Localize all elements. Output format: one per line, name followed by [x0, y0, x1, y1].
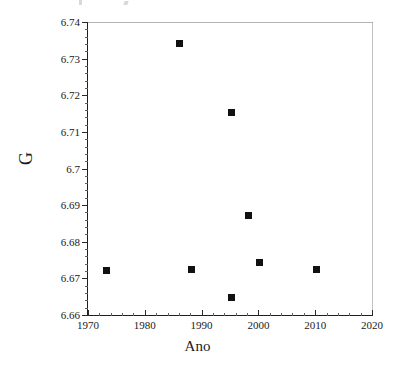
y-axis-tick-label: 6.67: [61, 273, 80, 284]
y-axis-tick-minor: [85, 66, 88, 67]
x-axis-tick-label: 1970: [68, 320, 108, 331]
x-axis-tick-major: [145, 310, 146, 316]
y-axis-tick-minor: [85, 176, 88, 177]
x-axis-tick-minor: [111, 313, 112, 316]
y-axis-tick-minor: [85, 293, 88, 294]
x-axis-title: Ano: [0, 338, 395, 355]
data-point: [255, 258, 264, 267]
y-axis-tick-label: 6.7: [66, 164, 80, 175]
y-axis-tick-label: 6.71: [61, 127, 80, 138]
y-axis-tick-label: 6.74: [61, 17, 80, 28]
y-axis-tick-minor: [85, 183, 88, 184]
cropped-title-artifact-right: [123, 1, 128, 5]
x-axis-tick-minor: [99, 313, 100, 316]
y-axis-tick-minor: [85, 234, 88, 235]
y-axis-tick-minor: [85, 110, 88, 111]
y-axis-tick-minor: [85, 29, 88, 30]
y-axis-tick-minor: [85, 220, 88, 221]
y-axis-tick-minor: [85, 117, 88, 118]
y-axis-tick-minor: [85, 256, 88, 257]
y-axis-tick-label: 6.69: [61, 200, 80, 211]
y-axis-tick-minor: [85, 125, 88, 126]
data-point: [187, 265, 196, 274]
plot-frame-right: [372, 22, 373, 316]
y-axis-tick-minor: [85, 190, 88, 191]
y-axis-tick-major: [82, 205, 88, 206]
y-axis-title: G: [16, 139, 37, 179]
x-axis-tick-minor: [338, 313, 339, 316]
y-axis-tick-minor: [85, 44, 88, 45]
y-axis-tick-major: [82, 169, 88, 170]
x-axis-tick-minor: [224, 313, 225, 316]
y-axis-tick-minor: [85, 286, 88, 287]
y-axis-tick-label: 6.68: [61, 237, 80, 248]
y-axis-tick-minor: [85, 73, 88, 74]
y-axis-tick-label-group: 6.666.676.686.696.76.716.726.736.74: [0, 0, 80, 365]
y-axis-tick-minor: [85, 51, 88, 52]
y-axis-tick-label: 6.73: [61, 54, 80, 65]
x-axis-tick-minor: [270, 313, 271, 316]
y-axis-tick-major: [82, 22, 88, 23]
x-axis-tick-label: 1980: [125, 320, 165, 331]
y-axis-tick-major: [82, 242, 88, 243]
data-point: [227, 108, 236, 117]
y-axis-tick-major: [82, 278, 88, 279]
x-axis-tick-major: [258, 310, 259, 316]
x-axis-tick-minor: [281, 313, 282, 316]
y-axis-tick-major: [82, 59, 88, 60]
x-axis-tick-major: [88, 310, 89, 316]
data-point: [312, 265, 321, 274]
y-axis-tick-minor: [85, 300, 88, 301]
y-axis-tick-minor: [85, 264, 88, 265]
y-axis-tick-minor: [85, 198, 88, 199]
x-axis-tick-minor: [168, 313, 169, 316]
x-axis-tick-minor: [190, 313, 191, 316]
x-axis-tick-major: [202, 310, 203, 316]
x-axis-tick-minor: [179, 313, 180, 316]
scatter-chart-figure: 6.666.676.686.696.76.716.726.736.74 1970…: [0, 0, 395, 365]
x-axis-tick-minor: [156, 313, 157, 316]
y-axis-tick-minor: [85, 37, 88, 38]
data-point: [244, 211, 253, 220]
y-axis-tick-major: [82, 132, 88, 133]
x-axis-tick-label: 1990: [182, 320, 222, 331]
y-axis-tick-label: 6.72: [61, 90, 80, 101]
y-axis-tick-major: [82, 95, 88, 96]
x-axis-tick-label: 2010: [295, 320, 335, 331]
data-point: [227, 293, 236, 302]
y-axis-tick-minor: [85, 249, 88, 250]
x-axis-tick-minor: [133, 313, 134, 316]
x-axis-tick-minor: [236, 313, 237, 316]
y-axis-tick-minor: [85, 81, 88, 82]
x-axis-tick-minor: [292, 313, 293, 316]
x-axis-tick-label: 2020: [352, 320, 392, 331]
x-axis-tick-label: 2000: [238, 320, 278, 331]
x-axis-tick-minor: [213, 313, 214, 316]
data-point: [102, 266, 111, 275]
y-axis-tick-minor: [85, 147, 88, 148]
y-axis-tick-minor: [85, 212, 88, 213]
y-axis-tick-minor: [85, 271, 88, 272]
x-axis-tick-minor: [349, 313, 350, 316]
x-axis-tick-major: [315, 310, 316, 316]
data-point: [175, 39, 184, 48]
x-axis-tick-minor: [327, 313, 328, 316]
x-axis-tick-minor: [247, 313, 248, 316]
y-axis-tick-minor: [85, 154, 88, 155]
y-axis-tick-minor: [85, 308, 88, 309]
y-axis-tick-minor: [85, 161, 88, 162]
x-axis-tick-minor: [304, 313, 305, 316]
x-axis-tick-minor: [122, 313, 123, 316]
y-axis-tick-minor: [85, 88, 88, 89]
y-axis-tick-minor: [85, 139, 88, 140]
x-axis-tick-major: [372, 310, 373, 316]
y-axis-tick-minor: [85, 227, 88, 228]
x-axis-line: [87, 315, 373, 316]
x-axis-tick-minor: [361, 313, 362, 316]
plot-frame-top: [87, 22, 373, 23]
y-axis-tick-minor: [85, 103, 88, 104]
